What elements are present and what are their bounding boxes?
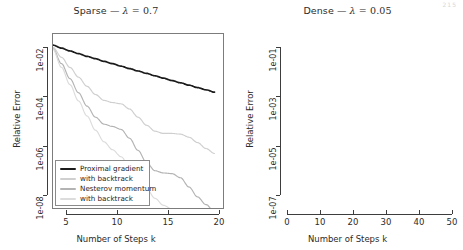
panel-right-title: Dense — λ = 0.05 (232, 5, 463, 16)
left-xlabel-10: 10 (103, 217, 131, 227)
legend-swatch-nesterov-momentum (59, 184, 77, 194)
left-ylabel-1e-06: 1e-06 (36, 148, 45, 178)
right-xlabel-30: 30 (372, 217, 400, 227)
legend-label-nesterov-momentum-backtrack: with backtrack (77, 194, 133, 204)
legend-item-proximal-gradient-backtrack: with backtrack (59, 174, 147, 184)
panel-left-title-eq: = (132, 5, 140, 16)
right-ylabel-1e-05: 1e-05 (269, 148, 278, 178)
left-x-axis-line (66, 214, 219, 215)
panel-right-title-dash: — (337, 5, 347, 16)
panel-left-title-prefix: Sparse (74, 5, 107, 16)
right-xtick-50 (452, 210, 453, 214)
panel-left-title-dash: — (110, 5, 120, 16)
panel-left-title: Sparse — λ = 0.7 (0, 5, 232, 16)
left-y-axis-title: Relative Error (12, 79, 22, 159)
right-ylabel-1e-01: 1e-01 (269, 49, 278, 79)
right-xtick-20 (353, 210, 354, 214)
legend-box: Proximal gradient with backtrack Nestero… (55, 160, 150, 206)
panel-right-title-value: 0.05 (370, 5, 392, 16)
right-xlabel-0: 0 (273, 217, 301, 227)
legend-swatch-proximal-gradient-backtrack (59, 174, 77, 184)
left-xlabel-20: 20 (205, 217, 233, 227)
series-line (53, 45, 215, 92)
right-y-axis-line (280, 47, 281, 195)
panel-dense: Dense — λ = 0.05 1e-01 1e-03 1e-05 1e-07… (232, 0, 463, 250)
legend-item-proximal-gradient: Proximal gradient (59, 164, 147, 174)
panel-left-title-value: 0.7 (143, 5, 158, 16)
left-xtick-15 (168, 210, 169, 214)
lambda-symbol: λ (123, 5, 129, 16)
right-xtick-30 (386, 210, 387, 214)
left-xtick-10 (117, 210, 118, 214)
right-ylabel-1e-03: 1e-03 (269, 98, 278, 128)
right-xtick-0 (287, 210, 288, 214)
right-xlabel-40: 40 (405, 217, 433, 227)
right-xlabel-50: 50 (438, 217, 463, 227)
left-xlabel-15: 15 (154, 217, 182, 227)
legend-swatch-nesterov-momentum-backtrack (59, 194, 77, 204)
legend-item-nesterov-momentum-backtrack: with backtrack (59, 194, 147, 204)
panel-right-title-eq: = (359, 5, 367, 16)
legend-label-proximal-gradient: Proximal gradient (77, 164, 143, 174)
left-xtick-5 (66, 210, 67, 214)
right-xlabel-10: 10 (306, 217, 334, 227)
right-y-axis-title: Relative Error (245, 79, 255, 159)
panel-sparse: Sparse — λ = 0.7 1e-02 1e-04 1e-06 1e-08… (0, 0, 232, 250)
left-x-axis-title: Number of Steps k (0, 234, 232, 244)
legend-swatch-proximal-gradient (59, 164, 77, 174)
right-xlabel-20: 20 (339, 217, 367, 227)
left-ylabel-1e-02: 1e-02 (36, 49, 45, 79)
left-y-axis-line (47, 47, 48, 195)
legend-label-nesterov-momentum: Nesterov momentum (77, 184, 156, 194)
left-xlabel-5: 5 (52, 217, 80, 227)
panel-right-title-prefix: Dense (303, 5, 333, 16)
right-x-axis-title: Number of Steps k (232, 234, 463, 244)
right-xtick-40 (419, 210, 420, 214)
left-ylabel-1e-08: 1e-08 (36, 197, 45, 227)
right-x-axis-line (287, 214, 452, 215)
legend-label-proximal-gradient-backtrack: with backtrack (77, 174, 133, 184)
left-xtick-20 (219, 210, 220, 214)
legend-item-nesterov-momentum: Nesterov momentum (59, 184, 147, 194)
right-xtick-10 (320, 210, 321, 214)
left-ylabel-1e-04: 1e-04 (36, 98, 45, 128)
lambda-symbol: λ (350, 5, 356, 16)
figure-convergence-comparison: 215 Sparse — λ = 0.7 1e-02 1e-04 1e-06 1… (0, 0, 463, 250)
